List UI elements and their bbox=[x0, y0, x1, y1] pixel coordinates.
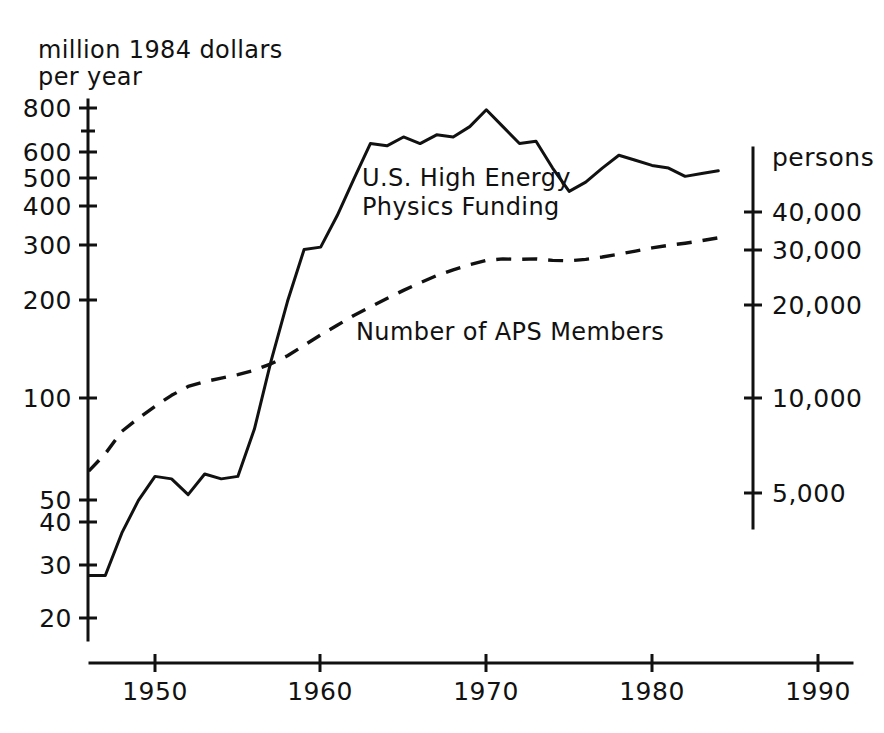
y-tick-label: 400 bbox=[23, 192, 72, 221]
y-axis-left-labels: 800 600 500 400 300 200 100 50 40 30 20 bbox=[23, 94, 72, 633]
series-annotation-funding-line2: Physics Funding bbox=[362, 193, 560, 221]
y-tick-label: 300 bbox=[23, 231, 72, 260]
x-tick-label: 1960 bbox=[287, 677, 353, 706]
x-tick-label: 1970 bbox=[453, 677, 519, 706]
y-tick-label: 800 bbox=[23, 94, 72, 123]
y-axis-title-line2: per year bbox=[38, 63, 142, 91]
y-tick-label: 100 bbox=[23, 384, 72, 413]
y-axis-title-line1: million 1984 dollars bbox=[38, 36, 283, 64]
y-tick-label: 600 bbox=[23, 138, 72, 167]
y-tick-label: 200 bbox=[23, 286, 72, 315]
y-tick-label: 40 bbox=[39, 508, 72, 537]
y-tick-label: 20 bbox=[39, 604, 72, 633]
chart-svg: million 1984 dollars per year 800 600 50… bbox=[0, 0, 884, 733]
x-tick-label: 1990 bbox=[785, 677, 851, 706]
y2-tick-label: 30,000 bbox=[772, 236, 862, 265]
y-tick-label: 30 bbox=[39, 551, 72, 580]
x-axis-labels: 1950 1960 1970 1980 1990 bbox=[122, 677, 851, 706]
chart-figure: million 1984 dollars per year 800 600 50… bbox=[0, 0, 884, 733]
y-axis-right-title: persons bbox=[772, 143, 874, 172]
y2-tick-label: 20,000 bbox=[772, 291, 862, 320]
y2-tick-label: 5,000 bbox=[772, 479, 846, 508]
y-tick-label: 500 bbox=[23, 164, 72, 193]
x-tick-label: 1980 bbox=[619, 677, 685, 706]
x-tick-label: 1950 bbox=[122, 677, 188, 706]
y2-tick-label: 10,000 bbox=[772, 384, 862, 413]
y2-tick-label: 40,000 bbox=[772, 198, 862, 227]
series-annotation-funding-line1: U.S. High Energy bbox=[362, 164, 571, 192]
series-annotation-aps-members: Number of APS Members bbox=[356, 318, 664, 346]
series-line-aps-members bbox=[89, 238, 719, 471]
y-axis-right-labels: 40,000 30,000 20,000 10,000 5,000 bbox=[772, 198, 862, 508]
